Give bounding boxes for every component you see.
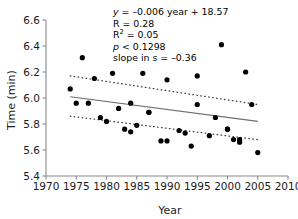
- data-point: [98, 115, 103, 120]
- data-point: [249, 102, 254, 107]
- x-tick-label: 1995: [184, 180, 211, 192]
- data-point: [80, 55, 85, 60]
- scatter-plot-figure: 5.45.65.86.06.26.46.6 197019751980198519…: [0, 0, 298, 219]
- data-point: [164, 77, 169, 82]
- data-point: [195, 73, 200, 78]
- data-point: [164, 138, 169, 143]
- data-point: [146, 110, 151, 115]
- x-tick-label: 1975: [63, 180, 90, 192]
- y-tick-label: 6.2: [23, 66, 40, 78]
- annotation-r: R = 0.28: [113, 18, 228, 30]
- x-tick-label: 1980: [93, 180, 120, 192]
- x-tick-label: 1990: [154, 180, 181, 192]
- y-tick-label: 6.6: [23, 14, 40, 26]
- data-point: [195, 102, 200, 107]
- data-point: [189, 144, 194, 149]
- annotation-r-squared: R2 = 0.05: [113, 29, 228, 41]
- x-tick-label: 2005: [244, 180, 271, 192]
- data-point: [116, 106, 121, 111]
- annotation-p-value: p < 0.1298: [113, 41, 228, 53]
- x-tick-label: 2000: [214, 180, 241, 192]
- data-point: [92, 76, 97, 81]
- data-point: [243, 69, 248, 74]
- x-axis-title: Year: [157, 204, 182, 217]
- annotation-slope: slope in s = –0.36: [113, 52, 228, 64]
- data-point: [68, 86, 73, 91]
- y-axis-ticks: 5.45.65.86.06.26.46.6: [23, 14, 46, 182]
- data-point: [74, 101, 79, 106]
- x-tick-label: 2010: [275, 180, 298, 192]
- data-point: [158, 138, 163, 143]
- data-point: [104, 119, 109, 124]
- x-axis-ticks: 197019751980198519901995200020052010: [33, 176, 298, 192]
- y-tick-label: 6.4: [23, 40, 40, 52]
- data-point: [140, 71, 145, 76]
- data-point: [110, 71, 115, 76]
- x-tick-label: 1970: [33, 180, 60, 192]
- data-point: [225, 127, 230, 132]
- data-point: [128, 129, 133, 134]
- data-point: [231, 137, 236, 142]
- y-tick-label: 5.8: [23, 118, 40, 130]
- statistics-annotation: y = –0.006 year + 18.57 R = 0.28 R2 = 0.…: [113, 6, 228, 64]
- data-point: [255, 150, 260, 155]
- y-axis-title: Time (min): [5, 70, 18, 131]
- data-point: [128, 101, 133, 106]
- data-point: [207, 133, 212, 138]
- data-point: [122, 127, 127, 132]
- data-point: [237, 137, 242, 142]
- equation-body: = –0.006 year + 18.57: [119, 6, 229, 17]
- r2-value: = 0.05: [124, 29, 159, 40]
- p-value: < 0.1298: [119, 41, 166, 52]
- x-tick-label: 1985: [123, 180, 150, 192]
- data-point: [177, 128, 182, 133]
- y-tick-label: 5.6: [23, 144, 40, 156]
- data-point: [183, 131, 188, 136]
- data-point: [213, 115, 218, 120]
- y-tick-label: 6.0: [23, 92, 40, 104]
- data-point: [86, 101, 91, 106]
- annotation-equation: y = –0.006 year + 18.57: [113, 6, 228, 18]
- data-point: [134, 123, 139, 128]
